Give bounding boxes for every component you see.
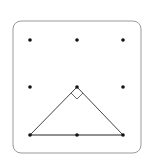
grid-dot-r1-c2 bbox=[75, 38, 79, 42]
triangle-right-leg bbox=[77, 87, 123, 135]
grid-dot-r1-c3 bbox=[121, 38, 125, 42]
triangle-legs bbox=[30, 87, 123, 135]
grid-dot-r3-c3 bbox=[121, 133, 125, 137]
grid-dot-r2-c2 bbox=[75, 85, 79, 89]
grid-dot-r3-c2 bbox=[75, 133, 79, 137]
grid-dot-r3-c1 bbox=[28, 133, 32, 137]
right-angle-marker bbox=[71, 93, 83, 99]
grid-dot-r2-c3 bbox=[121, 85, 125, 89]
grid-dot-r1-c1 bbox=[28, 38, 32, 42]
geoboard-diagram bbox=[0, 0, 151, 158]
grid-dot-r2-c1 bbox=[28, 85, 32, 89]
triangle-left-leg bbox=[30, 87, 77, 135]
